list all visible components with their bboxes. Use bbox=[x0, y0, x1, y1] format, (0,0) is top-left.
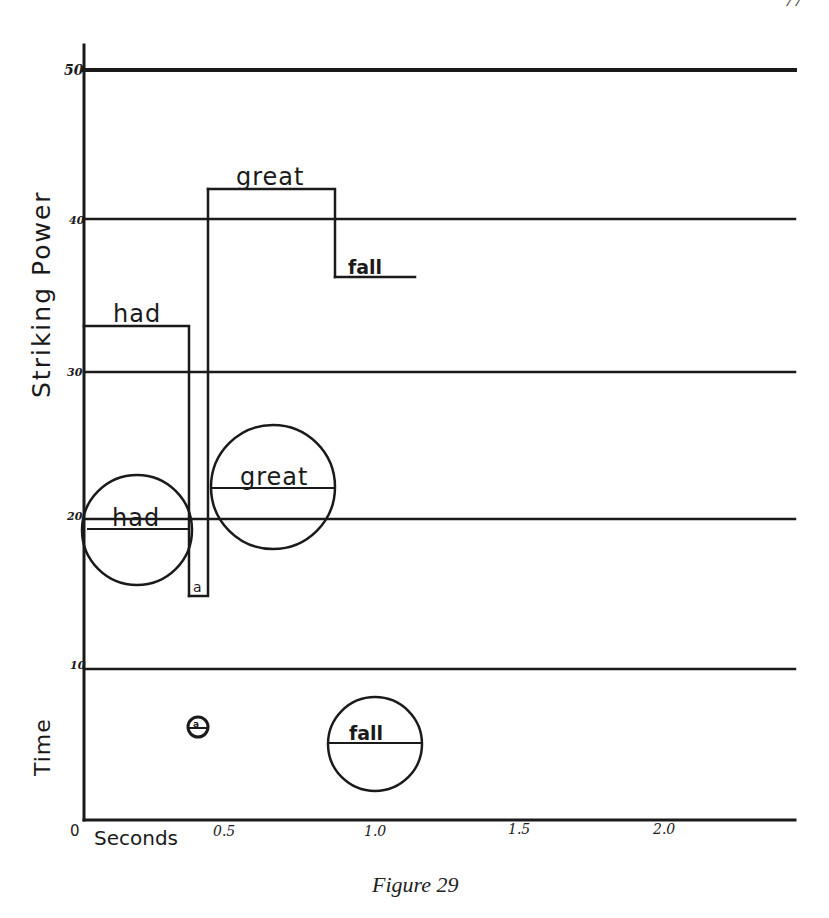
bar-label-had: had bbox=[113, 300, 161, 328]
figure-29-chart: 50 40 30 20 10 0 0.5 1.0 1.5 2.0 Seconds… bbox=[0, 0, 829, 918]
bar-had bbox=[84, 326, 189, 596]
xtick-0: 0 bbox=[70, 822, 80, 840]
xtick-1-0: 1.0 bbox=[364, 823, 386, 839]
ytick-40: 40 bbox=[69, 214, 85, 227]
bar-label-a: a bbox=[193, 579, 202, 595]
ytick-10: 10 bbox=[70, 659, 86, 672]
time-circle-label-had: had bbox=[112, 504, 160, 532]
xtick-0-5: 0.5 bbox=[213, 823, 235, 839]
xtick-1-5: 1.5 bbox=[508, 821, 530, 837]
xtick-2-0: 2.0 bbox=[652, 821, 675, 837]
bar-label-great: great bbox=[236, 163, 304, 191]
figure-caption: Figure 29 bbox=[372, 872, 459, 898]
time-circle-label-fall: fall bbox=[349, 722, 383, 744]
y-axis-label-striking-power: Striking Power bbox=[27, 190, 56, 398]
ytick-30: 30 bbox=[67, 366, 83, 379]
time-circle-label-great: great bbox=[240, 463, 308, 491]
bar-label-fall: fall bbox=[348, 256, 382, 278]
time-circle-label-a: a bbox=[193, 719, 199, 729]
ytick-50: 50 bbox=[64, 62, 84, 78]
bar-great bbox=[208, 189, 335, 277]
y-axis-label-time: Time bbox=[30, 718, 55, 777]
x-axis-label: Seconds bbox=[94, 826, 178, 850]
ytick-20: 20 bbox=[66, 510, 83, 523]
